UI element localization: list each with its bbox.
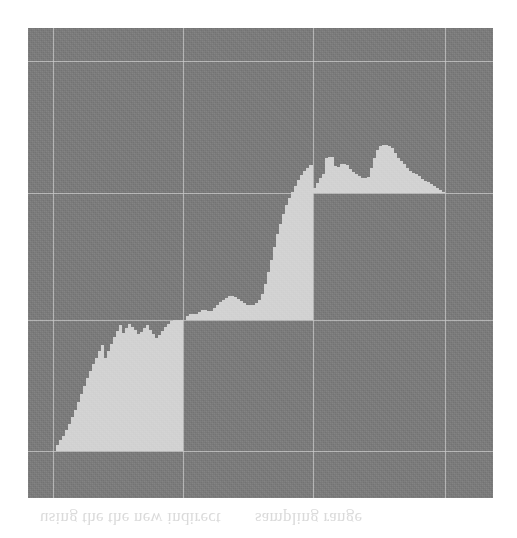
figure-container: using the the new indirect sampling rang… <box>0 0 517 538</box>
area-segment-3 <box>313 145 445 193</box>
area-segment-1 <box>53 320 183 451</box>
data-area-group <box>28 28 493 498</box>
ghost-text-right: sampling range <box>255 508 362 528</box>
area-segment-2 <box>183 165 313 320</box>
plot-panel <box>28 28 493 498</box>
ghost-text-left: using the the new indirect <box>40 508 221 528</box>
